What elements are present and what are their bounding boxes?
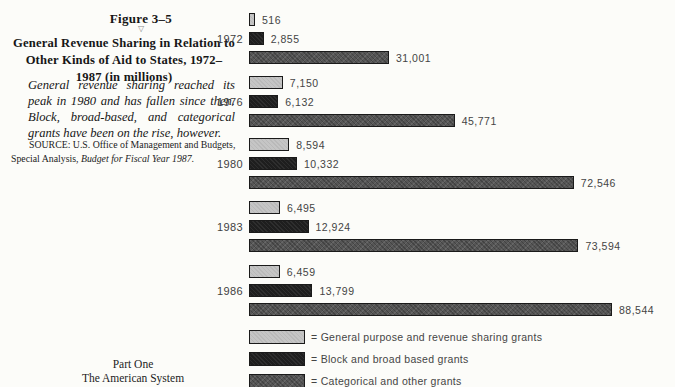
bar-1986-series2: [249, 303, 612, 316]
bar-1983-series0: [249, 201, 280, 214]
bar-1983-series2: [249, 239, 578, 252]
bar-value-label: 13,799: [319, 284, 354, 297]
bar-1980-series1: [249, 157, 297, 170]
year-label-1986: 1986: [198, 285, 243, 298]
bar-1980-series2: [249, 176, 574, 189]
year-label-1983: 1983: [198, 221, 243, 234]
legend-swatch-2: [249, 374, 305, 387]
figure-page: Figure 3–5 ▽ General Revenue Sharing in …: [0, 0, 675, 387]
year-label-1980: 1980: [198, 158, 243, 171]
bar-value-label: 88,544: [619, 303, 654, 316]
legend-label-0: = General purpose and revenue sharing gr…: [311, 330, 542, 344]
source-suffix: .: [192, 153, 194, 164]
bar-value-label: 516: [262, 13, 281, 26]
year-label-1976: 1976: [198, 96, 243, 109]
legend-label-1: = Block and broad based grants: [311, 352, 469, 366]
bar-1986-series1: [249, 284, 312, 297]
bar-1976-series2: [249, 114, 455, 127]
bar-value-label: 7,150: [290, 76, 319, 89]
bar-value-label: 8,594: [296, 138, 325, 151]
down-triangle-icon: ▽: [0, 25, 282, 33]
bar-1972-series2: [249, 51, 389, 64]
bar-value-label: 31,001: [396, 51, 431, 64]
bar-1976-series1: [249, 95, 278, 108]
bar-1972-series0: [249, 13, 255, 26]
bar-1972-series1: [249, 32, 264, 45]
legend-swatch-1: [249, 352, 305, 366]
bar-value-label: 10,332: [304, 157, 339, 170]
source-italic-title: Budget for Fiscal Year 1987: [81, 153, 192, 164]
legend-swatch-0: [249, 330, 305, 344]
bar-1983-series1: [249, 220, 309, 233]
year-label-1972: 1972: [198, 33, 243, 46]
bar-value-label: 73,594: [585, 239, 620, 252]
bar-value-label: 6,459: [287, 265, 316, 278]
legend-label-2: = Categorical and other grants: [311, 374, 462, 387]
page-footer: Part One The American System: [13, 357, 253, 385]
bar-1980-series0: [249, 138, 289, 151]
bar-1986-series0: [249, 265, 280, 278]
bar-value-label: 2,855: [271, 32, 300, 45]
bar-value-label: 45,771: [462, 114, 497, 127]
bar-1976-series0: [249, 76, 283, 89]
bar-value-label: 72,546: [581, 176, 616, 189]
bar-value-label: 6,495: [287, 201, 316, 214]
figure-note: General revenue sharing reached its peak…: [28, 77, 235, 141]
bar-value-label: 6,132: [285, 95, 314, 108]
bar-value-label: 12,924: [316, 220, 351, 233]
